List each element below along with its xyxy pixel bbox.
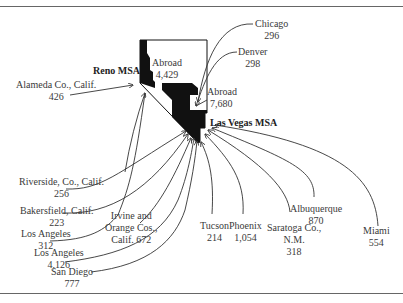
- label-denver: Denver 298: [238, 46, 267, 70]
- label-abroad-reno: Abroad 4,429: [152, 57, 182, 81]
- nevada-state-shape: [140, 40, 207, 143]
- label-phoenix: Phoenix 1,054: [229, 220, 262, 244]
- label-san-diego: San Diego 777: [51, 266, 93, 290]
- label-tucson: Tucson 214: [200, 220, 229, 244]
- label-albuquerque: Albuquerque 870: [290, 203, 342, 227]
- label-abroad-lv: Abroad 7,680: [207, 86, 237, 110]
- label-las-vegas-msa: Las Vegas MSA: [210, 117, 277, 129]
- label-reno-msa: Reno MSA: [93, 65, 140, 77]
- label-chicago: Chicago 296: [255, 18, 288, 42]
- flow-abroad-reno: [125, 93, 145, 172]
- label-riverside: Riverside, Co., Calif. 256: [19, 176, 104, 200]
- label-bakersfield: Bakersfield, Calif. 223: [20, 205, 94, 229]
- flow-albuquerque: [212, 128, 314, 197]
- label-saratoga: Saratoga Co., N.M. 318: [267, 222, 321, 258]
- flow-tucson: [201, 142, 213, 214]
- flow-saratoga: [208, 130, 290, 212]
- label-irvine: Irvine and Orange Cos., Calif. 672: [105, 210, 158, 246]
- label-alameda: Alameda Co., Calif. 426: [16, 79, 96, 103]
- label-miami: Miami 554: [363, 225, 390, 249]
- flow-bakersfield: [63, 134, 188, 213]
